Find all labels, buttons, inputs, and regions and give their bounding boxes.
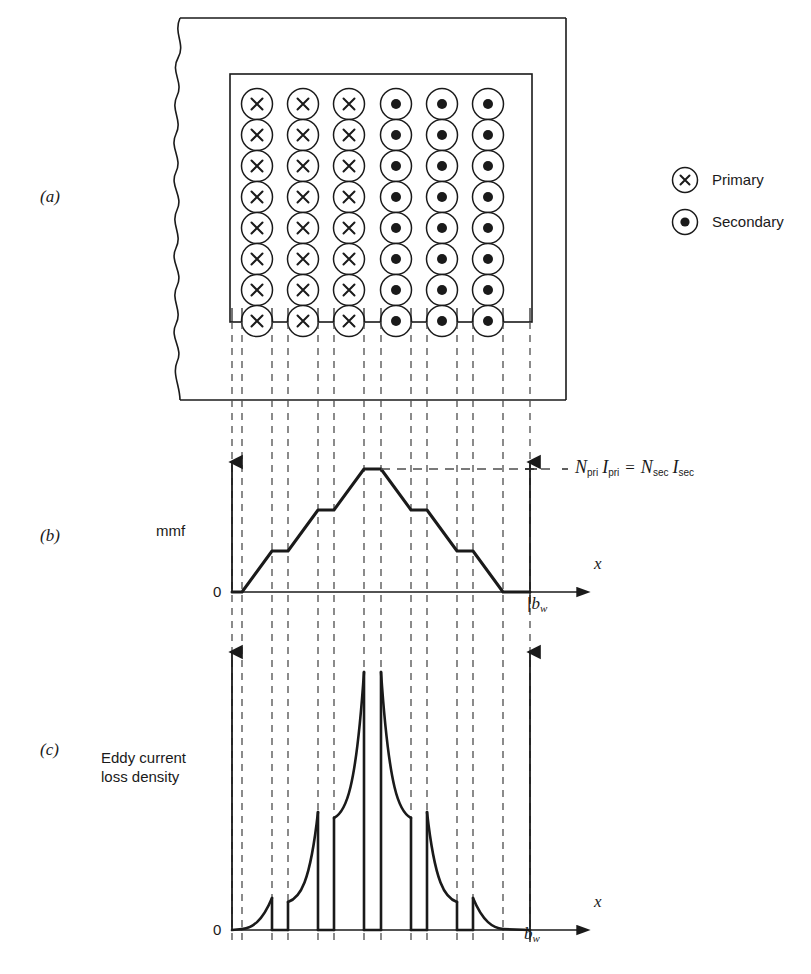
panel-b-y-axis-label: mmf bbox=[156, 521, 185, 540]
legend-secondary-icon bbox=[673, 210, 698, 235]
legend-primary-icon bbox=[673, 168, 698, 193]
figure-root: (a) (b) (c) Primary Secondary mmf 0 x |b… bbox=[0, 0, 811, 974]
panel-c-origin-label: 0 bbox=[213, 921, 221, 938]
conductor-column-3-primary bbox=[334, 89, 365, 337]
panel-b-origin-label: 0 bbox=[213, 583, 221, 600]
legend-label-primary: Primary bbox=[712, 171, 764, 188]
conductor-grid bbox=[242, 89, 504, 337]
legend-symbols bbox=[673, 168, 698, 235]
eddy-loss-waveform bbox=[232, 672, 530, 930]
panel-label-c: (c) bbox=[40, 740, 59, 760]
conductor-column-2-primary bbox=[288, 89, 319, 337]
panel-c-x-axis-label: x bbox=[594, 892, 602, 912]
mmf-peak-annotation: NpriIpri=NsecIsec bbox=[575, 457, 694, 478]
conductor-column-6-secondary bbox=[473, 89, 504, 337]
panel-c-window-width-label: bw bbox=[524, 924, 540, 944]
conductor-column-4-secondary bbox=[381, 89, 412, 337]
panel-b-axes bbox=[232, 462, 588, 592]
conductor-column-1-primary bbox=[242, 89, 273, 337]
panel-a-core-outline bbox=[174, 18, 566, 400]
figure-drawing bbox=[0, 0, 811, 974]
panel-b-window-width-label: |bw bbox=[527, 594, 547, 614]
panel-c-y-axis-label-line2: loss density bbox=[101, 767, 186, 786]
panel-b-x-axis-label: x bbox=[594, 554, 602, 574]
conductor-column-5-secondary bbox=[427, 89, 458, 337]
panel-label-a: (a) bbox=[40, 187, 60, 207]
panel-c-y-axis-label: Eddy current loss density bbox=[101, 748, 186, 786]
panel-label-b: (b) bbox=[40, 526, 60, 546]
legend-label-secondary: Secondary bbox=[712, 213, 784, 230]
panel-c-y-axis-label-line1: Eddy current bbox=[101, 748, 186, 767]
